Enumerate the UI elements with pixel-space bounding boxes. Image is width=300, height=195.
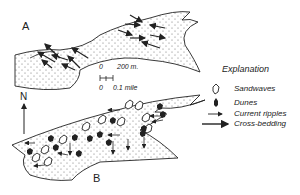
scale-bar — [100, 75, 113, 81]
scale-imperial-end: 0.1 mile — [113, 84, 138, 91]
legend-label-cross-bedding: Cross-bedding — [234, 119, 286, 128]
legend-label-dunes: Dunes — [234, 98, 257, 107]
scale-imperial-start: 0 — [99, 84, 103, 91]
scale-metric-end: 200 m. — [117, 63, 138, 70]
legend-symbols — [202, 84, 228, 124]
panel-label-a: A — [22, 20, 29, 32]
north-label: N — [20, 91, 27, 102]
dune-icon — [214, 98, 218, 107]
legend-label-current-ripples: Current ripples — [234, 109, 286, 118]
scale-metric-start: 0 — [99, 63, 103, 70]
legend-title: Explanation — [222, 64, 269, 74]
sandwave-icon — [213, 84, 219, 94]
legend-label-sandwaves: Sandwaves — [234, 84, 275, 93]
panel-label-b: B — [93, 172, 100, 184]
panel-b-channel — [12, 95, 205, 180]
